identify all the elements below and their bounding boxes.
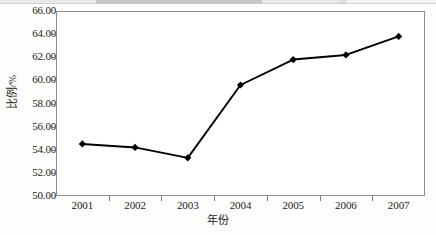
x-axis-tick-label: 2007 xyxy=(373,199,425,211)
data-point-marker: 2005: 61.8 xyxy=(290,56,297,63)
data-point-marker: 2002: 54.2 xyxy=(131,144,138,151)
scan-artifact-line xyxy=(0,3,436,4)
data-point-marker: 2001: 54.5 xyxy=(79,140,86,147)
x-axis-tick-label: 2001 xyxy=(56,199,108,211)
y-axis-tick-label: 50.00 xyxy=(0,190,56,201)
series-line xyxy=(82,36,398,157)
x-axis-tick-label: 2006 xyxy=(320,199,372,211)
y-axis-tick-label: 62.00 xyxy=(0,51,56,62)
x-axis-title: 年份 xyxy=(0,214,436,226)
x-axis-tick-label: 2002 xyxy=(109,199,161,211)
y-axis-tick-label: 52.00 xyxy=(0,167,56,178)
x-axis-tick-mark xyxy=(372,196,373,201)
y-axis-tick-label: 56.00 xyxy=(0,121,56,132)
data-point-marker: 2006: 62.2 xyxy=(342,51,349,58)
x-axis-tick-label: 2003 xyxy=(162,199,214,211)
data-point-marker: 2007: 63.8 xyxy=(395,33,402,40)
chart-page: 50.0052.0054.0056.0058.0060.0062.0064.00… xyxy=(0,0,436,235)
y-axis-tick-label: 66.00 xyxy=(0,5,56,16)
y-axis-tick-label: 54.00 xyxy=(0,144,56,155)
x-axis-tick-mark xyxy=(267,196,268,201)
x-axis-tick-mark xyxy=(161,196,162,201)
x-axis-tick-label: 2004 xyxy=(215,199,267,211)
x-axis-tick-label: 2005 xyxy=(267,199,319,211)
y-axis-title: 比例/% xyxy=(6,62,18,122)
x-axis-tick-mark xyxy=(109,196,110,201)
x-axis-tick-mark xyxy=(320,196,321,201)
line-chart-plot: 2001: 54.52002: 54.22003: 53.32004: 59.6… xyxy=(56,11,425,196)
x-axis-tick-mark xyxy=(214,196,215,201)
y-axis-tick-label: 64.00 xyxy=(0,28,56,39)
